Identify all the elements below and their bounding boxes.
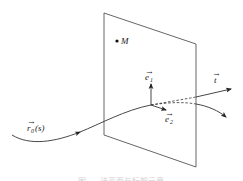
label-e2-sub: 2	[170, 119, 173, 125]
label-t: → t	[212, 68, 221, 85]
label-e2-main: e	[165, 114, 169, 124]
normal-plane	[104, 13, 196, 167]
curve-r0-before-plane	[12, 132, 80, 142]
point-m-dot	[115, 39, 118, 42]
label-r0-arg: (s)	[35, 123, 45, 133]
point-m-label: M	[120, 36, 129, 46]
figure-caption: 图 … 法平面与标架示意	[78, 176, 163, 181]
label-e2: → e 2	[165, 108, 174, 125]
label-e1-main: e	[145, 72, 149, 82]
label-r0s: → r 0 (s)	[27, 116, 45, 134]
vector-e2	[151, 105, 166, 110]
tangent-vector-t	[196, 89, 231, 97]
label-e1-sub: 1	[150, 77, 153, 83]
label-e1: → e 1	[145, 66, 154, 83]
curve-dashed-continuation	[151, 103, 196, 105]
label-r0-sub: 0	[31, 128, 34, 134]
frenet-frame-diagram: M → e 1 → e 2 → t → r 0 (s) 图 … 法平面与标架示意	[0, 0, 243, 181]
curve-r0-to-origin	[80, 105, 151, 132]
curve-continuation-arrow	[196, 104, 226, 117]
